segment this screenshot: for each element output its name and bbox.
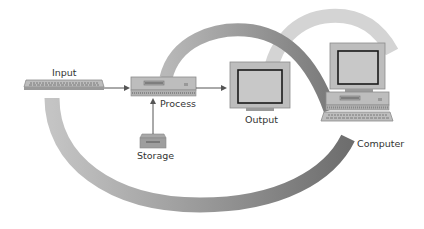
storage-drive-icon bbox=[140, 134, 166, 148]
system-unit-icon bbox=[131, 77, 196, 96]
cycle-diagram bbox=[0, 0, 424, 229]
arrow-process-to-output bbox=[196, 85, 227, 91]
label-storage: Storage bbox=[137, 150, 174, 161]
arrow-storage-to-process bbox=[150, 98, 156, 134]
diagram-canvas: Input Process Output Storage Computer bbox=[0, 0, 424, 229]
label-input: Input bbox=[52, 67, 77, 78]
label-computer: Computer bbox=[357, 138, 404, 149]
label-output: Output bbox=[245, 114, 278, 125]
label-process: Process bbox=[160, 98, 196, 109]
monitor-icon bbox=[230, 62, 290, 111]
computer-icon bbox=[321, 43, 393, 121]
arrow-input-to-process bbox=[104, 85, 130, 91]
cycle-band-lower bbox=[52, 98, 348, 205]
keyboard-icon bbox=[24, 80, 104, 90]
